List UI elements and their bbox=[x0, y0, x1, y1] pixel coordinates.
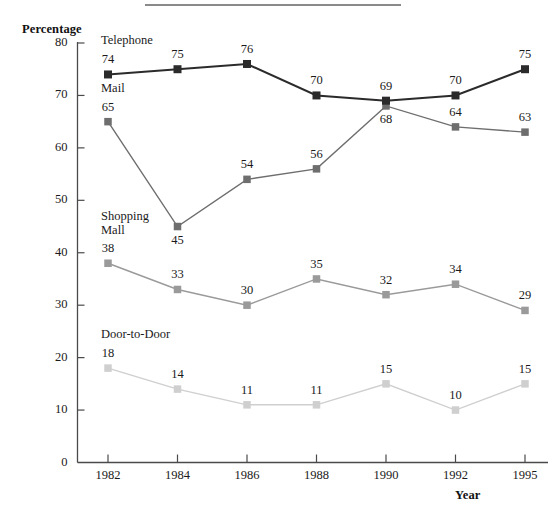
x-axis-tick-label: 1990 bbox=[364, 468, 408, 483]
x-axis-tick-label: 1986 bbox=[225, 468, 269, 483]
data-point-label: 38 bbox=[88, 241, 128, 256]
data-point-label: 63 bbox=[505, 110, 545, 125]
series-marker bbox=[382, 97, 390, 105]
series-marker bbox=[174, 385, 182, 393]
series-marker bbox=[452, 280, 460, 288]
series-marker bbox=[382, 380, 390, 388]
data-point-label: 69 bbox=[366, 79, 406, 94]
x-axis-tick-label: 1992 bbox=[434, 468, 478, 483]
data-point-label: 65 bbox=[88, 100, 128, 115]
y-axis-tick-label: 50 bbox=[42, 192, 68, 207]
series-marker bbox=[521, 65, 529, 73]
data-point-label: 11 bbox=[227, 383, 267, 398]
chart-figure: Percentage Year 010203040506070801982198… bbox=[0, 0, 559, 519]
data-point-label: 14 bbox=[158, 367, 198, 382]
x-axis-tick-label: 1984 bbox=[156, 468, 200, 483]
series-marker bbox=[243, 176, 251, 184]
y-axis-tick-label: 60 bbox=[42, 140, 68, 155]
series-marker bbox=[104, 259, 112, 267]
x-axis-tick-label: 1988 bbox=[295, 468, 339, 483]
y-axis-tick-label: 40 bbox=[42, 245, 68, 260]
series-marker bbox=[243, 401, 251, 409]
series-marker bbox=[174, 65, 182, 73]
data-point-label: 70 bbox=[297, 73, 337, 88]
data-point-label: 30 bbox=[227, 283, 267, 298]
data-point-label: 64 bbox=[436, 105, 476, 120]
data-point-label: 70 bbox=[436, 73, 476, 88]
series-marker bbox=[521, 128, 529, 136]
series-marker bbox=[243, 301, 251, 309]
series-marker bbox=[104, 118, 112, 126]
x-axis-tick-label: 1982 bbox=[86, 468, 130, 483]
series-marker bbox=[174, 286, 182, 294]
data-point-label: 33 bbox=[158, 267, 198, 282]
y-axis-tick-label: 10 bbox=[42, 402, 68, 417]
series-marker bbox=[452, 406, 460, 414]
y-axis-tick-label: 30 bbox=[42, 297, 68, 312]
series-marker bbox=[313, 91, 321, 99]
data-point-label: 68 bbox=[366, 112, 406, 127]
series-marker bbox=[243, 60, 251, 68]
data-point-label: 75 bbox=[158, 47, 198, 62]
series-marker bbox=[174, 223, 182, 231]
data-point-label: 29 bbox=[505, 288, 545, 303]
data-point-label: 76 bbox=[227, 42, 267, 57]
y-axis-tick-label: 80 bbox=[42, 35, 68, 50]
series-marker bbox=[104, 364, 112, 372]
series-name-label: Shopping Mall bbox=[101, 210, 149, 237]
data-point-label: 45 bbox=[158, 233, 198, 248]
y-axis-tick-label: 20 bbox=[42, 350, 68, 365]
series-marker bbox=[313, 165, 321, 173]
series-name-label: Telephone bbox=[101, 34, 153, 48]
series-marker bbox=[452, 123, 460, 130]
data-point-label: 32 bbox=[366, 273, 406, 288]
series-marker bbox=[382, 291, 390, 299]
data-point-label: 34 bbox=[436, 262, 476, 277]
series-marker bbox=[452, 91, 460, 99]
y-axis-tick-label: 0 bbox=[42, 455, 68, 470]
data-point-label: 15 bbox=[366, 362, 406, 377]
x-axis-tick-label: 1995 bbox=[503, 468, 547, 483]
series-marker bbox=[521, 380, 529, 388]
y-axis-tick-label: 70 bbox=[42, 87, 68, 102]
series-marker bbox=[521, 307, 529, 315]
series-name-label: Mail bbox=[101, 82, 125, 96]
series-marker bbox=[313, 401, 321, 409]
data-point-label: 15 bbox=[505, 362, 545, 377]
data-point-label: 11 bbox=[297, 383, 337, 398]
data-point-label: 54 bbox=[227, 157, 267, 172]
data-point-label: 35 bbox=[297, 257, 337, 272]
series-marker bbox=[313, 275, 321, 283]
data-point-label: 10 bbox=[436, 388, 476, 403]
data-point-label: 18 bbox=[88, 346, 128, 361]
data-point-label: 74 bbox=[88, 52, 128, 67]
data-point-label: 56 bbox=[297, 147, 337, 162]
series-marker bbox=[104, 70, 112, 78]
data-point-label: 75 bbox=[505, 47, 545, 62]
series-name-label: Door-to-Door bbox=[101, 328, 170, 342]
